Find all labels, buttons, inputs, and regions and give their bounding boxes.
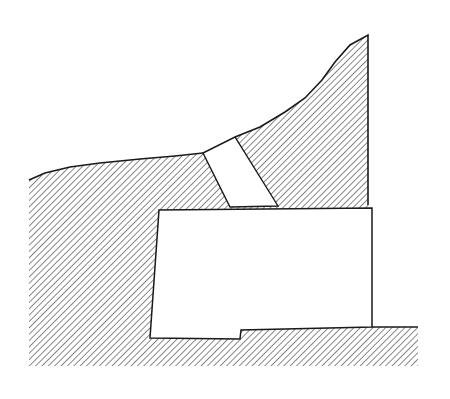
section-drawing [0,0,450,399]
rectangular-chamber [150,208,372,339]
